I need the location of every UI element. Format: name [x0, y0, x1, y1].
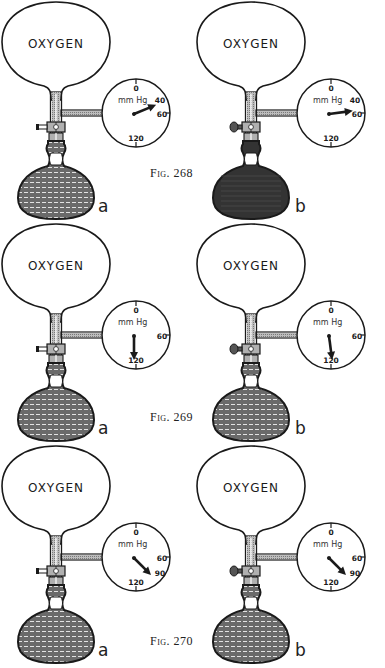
liquid-flask	[213, 585, 289, 663]
gauge-tick-120: 120	[128, 356, 144, 365]
gauge-tick-0: 0	[328, 528, 333, 537]
bulb-label: OXYGEN	[223, 259, 279, 273]
liquid-flask	[213, 363, 289, 441]
gauge-unit: mm Hg	[313, 540, 342, 549]
side-arm-tube	[61, 554, 103, 560]
oxygen-bulb: OXYGEN	[197, 224, 305, 322]
pressure-gauge: 04060120 mm Hg	[297, 79, 365, 147]
gauge-tick-90: 90	[155, 569, 165, 578]
gauge-unit: mm Hg	[118, 540, 147, 549]
oxygen-bulb: OXYGEN	[197, 2, 305, 100]
apparatus-drawing: OXYGEN	[0, 222, 190, 442]
apparatus-panel-fig-270-a: OXYGEN	[0, 444, 190, 664]
gauge-tick-120: 120	[128, 134, 144, 143]
gauge-tick-0: 0	[133, 306, 138, 315]
apparatus-drawing: OXYGEN	[195, 222, 385, 442]
gauge-tick-60: 60	[352, 110, 362, 119]
liquid-flask	[18, 141, 94, 219]
bulb-label: OXYGEN	[28, 481, 84, 495]
stopcock-valve[interactable]	[230, 122, 260, 141]
apparatus-panel-fig-269-a: OXYGEN	[0, 222, 190, 442]
gauge-tick-120: 120	[128, 578, 144, 587]
pressure-gauge: 06090120 mm Hg	[102, 523, 170, 591]
side-arm-tube	[256, 332, 298, 338]
bulb-label: OXYGEN	[223, 37, 279, 51]
gauge-unit: mm Hg	[313, 318, 342, 327]
stopcock-valve[interactable]	[36, 344, 65, 363]
apparatus-drawing: OXYGEN	[0, 444, 190, 664]
liquid-flask	[18, 585, 94, 663]
apparatus-drawing: OXYGEN	[195, 0, 385, 220]
gauge-tick-60: 60	[352, 332, 362, 341]
liquid-flask	[18, 363, 94, 441]
apparatus-panel-fig-269-b: OXYGEN	[195, 222, 385, 442]
stopcock-valve[interactable]	[36, 566, 65, 585]
gauge-tick-40: 40	[350, 96, 360, 105]
oxygen-bulb: OXYGEN	[2, 2, 110, 100]
panel-letter: a	[98, 640, 108, 660]
gauge-tick-120: 120	[323, 578, 339, 587]
oxygen-bulb: OXYGEN	[197, 446, 305, 544]
pressure-gauge: 060120 mm Hg	[102, 301, 170, 369]
bulb-label: OXYGEN	[223, 481, 279, 495]
panel-letter: a	[98, 196, 108, 216]
gauge-unit: mm Hg	[118, 96, 147, 105]
panel-letter: b	[295, 418, 306, 438]
stopcock-valve[interactable]	[230, 344, 260, 363]
side-arm-tube	[256, 110, 298, 116]
pressure-gauge: 06090120 mm Hg	[297, 523, 365, 591]
gauge-tick-0: 0	[133, 84, 138, 93]
oxygen-bulb: OXYGEN	[2, 224, 110, 322]
oxygen-bulb: OXYGEN	[2, 446, 110, 544]
panel-letter: a	[98, 418, 108, 438]
gauge-tick-0: 0	[133, 528, 138, 537]
bulb-label: OXYGEN	[28, 259, 84, 273]
apparatus-panel-fig-268-b: OXYGEN	[195, 0, 385, 220]
side-arm-tube	[256, 554, 298, 560]
gauge-tick-60: 60	[157, 554, 167, 563]
liquid-flask	[213, 141, 289, 219]
panel-letter: b	[295, 640, 306, 660]
apparatus-panel-fig-270-b: OXYGEN	[195, 444, 385, 664]
gauge-unit: mm Hg	[118, 318, 147, 327]
gauge-tick-0: 0	[328, 84, 333, 93]
gauge-unit: mm Hg	[313, 96, 342, 105]
apparatus-drawing: OXYGEN	[195, 444, 385, 664]
gauge-tick-40: 40	[155, 96, 165, 105]
side-arm-tube	[61, 110, 103, 116]
apparatus-panel-fig-268-a: OXYGEN	[0, 0, 190, 220]
figure-caption: Fig. 269	[150, 410, 193, 425]
stopcock-valve[interactable]	[36, 122, 65, 141]
gauge-tick-90: 90	[350, 569, 360, 578]
figure-caption: Fig. 270	[150, 634, 193, 649]
pressure-gauge: 060120 mm Hg	[297, 301, 365, 369]
gauge-tick-60: 60	[157, 332, 167, 341]
side-arm-tube	[61, 332, 103, 338]
figure-caption: Fig. 268	[150, 166, 193, 181]
gauge-tick-120: 120	[323, 134, 339, 143]
apparatus-drawing: OXYGEN	[0, 0, 190, 220]
gauge-tick-60: 60	[352, 554, 362, 563]
gauge-tick-0: 0	[328, 306, 333, 315]
pressure-gauge: 04060120 mm Hg	[102, 79, 170, 147]
stopcock-valve[interactable]	[230, 566, 260, 585]
bulb-label: OXYGEN	[28, 37, 84, 51]
gauge-tick-60: 60	[157, 110, 167, 119]
panel-letter: b	[295, 196, 306, 216]
